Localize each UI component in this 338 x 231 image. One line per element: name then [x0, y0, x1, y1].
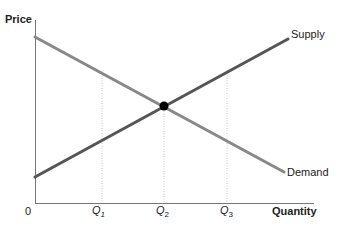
supply-demand-diagram: Price Quantity 0 Supply Demand Q1 Q2 Q3 — [0, 0, 338, 231]
q3-label: Q3 — [220, 204, 234, 219]
demand-label: Demand — [287, 166, 329, 178]
q1-label: Q1 — [92, 204, 105, 219]
origin-label: 0 — [25, 205, 31, 217]
supply-label: Supply — [291, 28, 325, 40]
x-axis-label: Quantity — [272, 205, 317, 217]
y-axis-label: Price — [5, 13, 32, 25]
q2-label: Q2 — [156, 204, 170, 219]
equilibrium-point — [160, 102, 169, 111]
demand-curve — [35, 37, 284, 172]
